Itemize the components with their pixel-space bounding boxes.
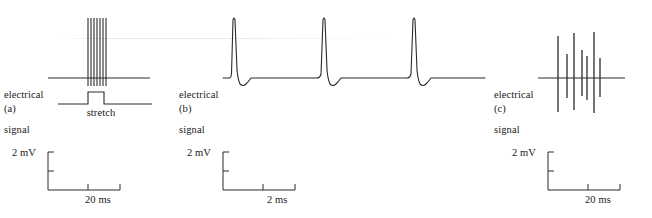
panel-c-letter: (c) <box>494 103 506 114</box>
panel-c-scale-bar <box>490 140 652 218</box>
figure-electrical-signal-recordings: electrical signal stretch (a) 2 mV <box>0 0 652 218</box>
panel-a-scale-x-label: 20 ms <box>85 194 111 205</box>
panel-b: electrical signal (b) 2 mV 2 ms <box>175 0 490 218</box>
panel-c-scale-x-label: 20 ms <box>585 194 611 205</box>
panel-a-spike-burst <box>88 18 106 86</box>
panel-a-stretch-pulse <box>58 92 152 104</box>
panel-c-trace <box>490 0 652 130</box>
panel-b-letter: (b) <box>179 103 192 114</box>
panel-c: electrical signal (c) 2 mV <box>490 0 652 218</box>
panel-a-scale-bar <box>0 140 175 218</box>
panel-c-spikes <box>558 32 600 113</box>
panel-a-stretch-label: stretch <box>66 107 136 118</box>
panel-a-letter: (a) <box>4 103 16 114</box>
panel-b-scale-bar <box>175 140 490 218</box>
panel-a: electrical signal stretch (a) 2 mV <box>0 0 175 218</box>
panel-b-trace <box>175 0 490 130</box>
panel-b-scale-x-label: 2 ms <box>267 194 288 205</box>
